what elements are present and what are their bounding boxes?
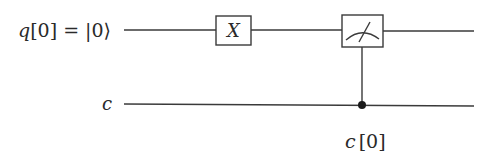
x-gate: X <box>216 16 251 45</box>
measure-gate <box>342 15 383 47</box>
measure-target-label: c[0] <box>345 130 386 152</box>
measure-target-dot <box>358 101 366 109</box>
quantum-circuit: q[0] = |0⟩ X c c[0] <box>0 0 499 159</box>
classical-wire <box>124 104 474 106</box>
qubit-label: q[0] = |0⟩ <box>18 19 111 42</box>
svg-text:X: X <box>225 20 241 41</box>
classical-label: c <box>102 93 112 114</box>
